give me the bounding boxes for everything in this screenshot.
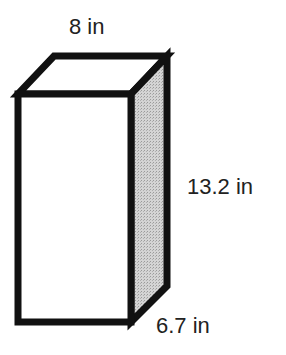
height-label: 13.2 in — [187, 176, 253, 198]
side-face — [131, 56, 167, 322]
front-face — [18, 94, 131, 322]
width-label: 8 in — [69, 16, 104, 38]
depth-label: 6.7 in — [156, 315, 210, 337]
